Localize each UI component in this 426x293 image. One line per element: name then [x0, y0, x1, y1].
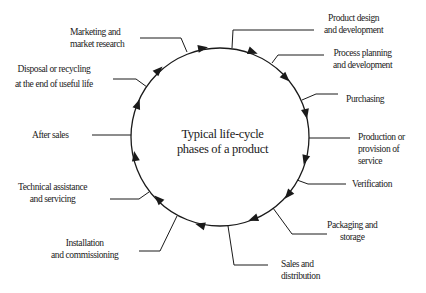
- leader-verification: [297, 180, 346, 184]
- phase-installation: Installation and commissioning: [51, 237, 118, 261]
- phase-label-line: Product design: [324, 12, 383, 24]
- phase-technical-assistance: Technical assistance and servicing: [18, 181, 87, 205]
- leader-marketing: [140, 38, 187, 52]
- phase-label-line: Packaging and: [327, 219, 377, 231]
- phase-after-sales: After sales: [32, 129, 69, 141]
- arrow-icon: [301, 108, 311, 119]
- phase-production: Production or provision of service: [358, 131, 405, 167]
- center-title-line-1: Typical life-cycle: [150, 127, 295, 142]
- center-title: Typical life-cycle phases of a product: [150, 127, 295, 157]
- phase-label-line: service: [358, 155, 405, 167]
- arrow-icon: [133, 98, 144, 110]
- phase-label-line: and commissioning: [51, 249, 118, 261]
- phase-label-line: Technical assistance: [18, 181, 87, 193]
- phase-label-line: and servicing: [18, 193, 87, 205]
- leader-technical-assistance: [110, 192, 149, 199]
- leader-purchasing: [302, 94, 338, 100]
- phase-label-line: After sales: [32, 129, 69, 141]
- phase-packaging: Packaging and storage: [327, 219, 377, 243]
- phase-label-line: Process planning: [333, 47, 392, 59]
- phase-label-line: provision of: [358, 143, 405, 155]
- arrow-icon: [152, 193, 165, 206]
- leader-process-planning: [272, 55, 324, 63]
- phase-verification: Verification: [352, 178, 392, 190]
- arrow-icon: [194, 220, 206, 230]
- arrow-icon: [197, 43, 208, 53]
- phase-label-line: Purchasing: [346, 93, 384, 105]
- phase-label-line: and development: [333, 59, 392, 71]
- phase-label-line: Production or: [358, 131, 405, 143]
- arrow-icon: [153, 64, 166, 77]
- center-title-line-2: phases of a product: [150, 142, 295, 157]
- phase-label-line: Installation: [51, 237, 118, 249]
- phase-label-line: distribution: [281, 270, 320, 282]
- leader-product-design: [232, 30, 314, 48]
- leader-disposal: [113, 79, 147, 87]
- phase-label-line: market research: [70, 38, 124, 50]
- phase-product-design: Product design and development: [324, 12, 383, 36]
- phase-sales: Sales and distribution: [281, 258, 320, 282]
- phase-purchasing: Purchasing: [346, 93, 384, 105]
- phase-disposal: Disposal or recycling at the end of usef…: [15, 63, 93, 90]
- phase-label-line: storage: [327, 231, 377, 243]
- phase-label-line: Disposal or recycling: [15, 63, 93, 75]
- phase-label-line: at the end of useful life: [15, 78, 93, 90]
- leader-sales: [228, 226, 268, 265]
- phase-label-line: Marketing and: [70, 26, 124, 38]
- phase-marketing: Marketing and market research: [70, 26, 124, 50]
- phase-label-line: Verification: [352, 178, 392, 190]
- leader-packaging: [273, 208, 327, 234]
- leader-installation: [139, 216, 177, 251]
- arrow-icon: [247, 214, 259, 225]
- phase-label-line: and development: [324, 24, 383, 36]
- phase-label-line: Sales and: [281, 258, 320, 270]
- phase-process-planning: Process planning and development: [333, 47, 392, 71]
